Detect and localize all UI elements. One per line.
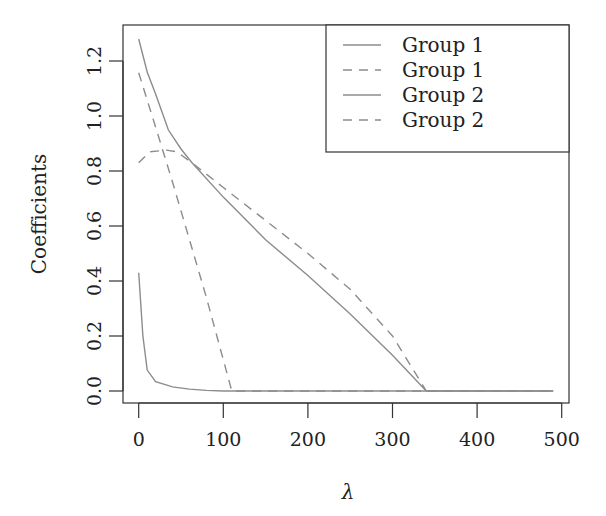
x-axis: 0100200300400500: [133, 403, 580, 450]
y-tick-label: 1.2: [83, 46, 105, 76]
y-tick-label: 0.4: [83, 266, 105, 296]
legend-label: Group 1: [402, 58, 484, 82]
x-tick-label: 500: [544, 428, 580, 450]
y-tick-label: 0.6: [83, 211, 105, 241]
legend-label: Group 2: [402, 108, 484, 132]
coefficient-path-chart: 0100200300400500 0.00.20.40.60.81.01.2 λ…: [0, 0, 606, 516]
x-tick-label: 100: [205, 428, 241, 450]
legend-label: Group 1: [402, 33, 484, 57]
x-tick-label: 200: [290, 428, 326, 450]
y-tick-label: 0.8: [83, 156, 105, 186]
legend-label: Group 2: [402, 83, 484, 107]
x-tick-label: 400: [459, 428, 495, 450]
y-tick-label: 0.2: [83, 321, 105, 351]
x-tick-label: 0: [133, 428, 145, 450]
x-axis-title: λ: [341, 480, 355, 504]
y-tick-label: 1.0: [83, 101, 105, 131]
y-axis-title: Coefficients: [27, 154, 51, 274]
x-tick-label: 300: [374, 428, 410, 450]
series-line-4: [139, 150, 427, 391]
legend: Group 1Group 1Group 2Group 2: [326, 25, 569, 152]
y-tick-label: 0.0: [83, 376, 105, 406]
series-line-3: [139, 273, 554, 391]
y-axis: 0.00.20.40.60.81.01.2: [83, 46, 123, 406]
